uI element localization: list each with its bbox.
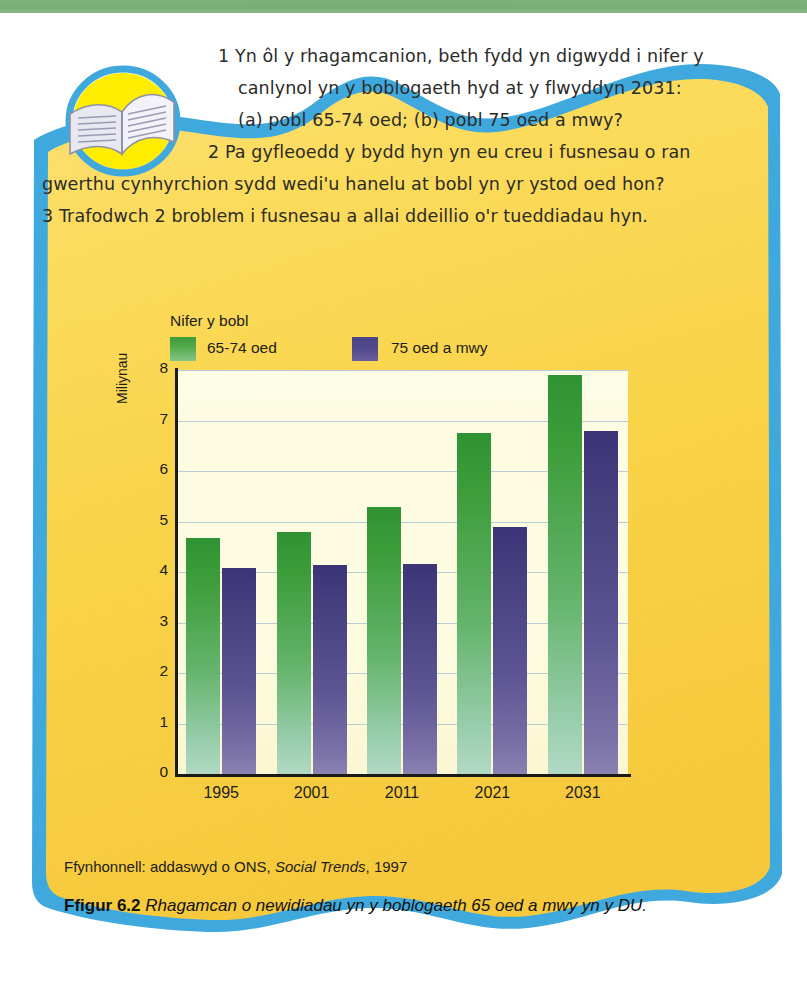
- source-suffix: , 1997: [366, 858, 408, 875]
- x-tick-label-2031: 2031: [543, 784, 623, 802]
- bar-chart: Nifer y bobl 65-74 oed 75 oed a mwy Mili…: [120, 312, 660, 832]
- y-tick-label: 5: [146, 511, 168, 529]
- question-line-2: canlynol yn y boblogaeth hyd at y flwydd…: [238, 80, 682, 98]
- bar-2021-green: [457, 433, 491, 774]
- top-green-strip: [0, 0, 807, 13]
- gridline: [176, 370, 628, 371]
- y-tick-label: 3: [146, 612, 168, 630]
- legend-swatch-75-plus: [352, 337, 378, 361]
- question-line-5: gwerthu cynhyrchion sydd wedi'u hanelu a…: [42, 176, 665, 194]
- y-tick-label: 0: [146, 763, 168, 781]
- chart-legend-title: Nifer y bobl: [170, 312, 248, 330]
- bar-2011-purple: [403, 564, 437, 774]
- x-tick-label-2021: 2021: [452, 784, 532, 802]
- chart-legend: 65-74 oed 75 oed a mwy: [170, 336, 590, 362]
- y-axis-line: [175, 368, 178, 776]
- legend-swatch-65-74: [170, 337, 196, 361]
- figure-number: Ffigur 6.2: [64, 896, 141, 915]
- y-axis-label: Miliynau: [114, 353, 130, 404]
- source-publication: Social Trends: [275, 858, 366, 875]
- legend-label-65-74: 65-74 oed: [207, 339, 277, 357]
- figure-caption-text: Rhagamcan o newidiadau yn y boblogaeth 6…: [145, 896, 647, 915]
- source-line: Ffynhonnell: addaswyd o ONS, Social Tren…: [64, 858, 407, 875]
- x-tick-label-2001: 2001: [272, 784, 352, 802]
- bar-2011-green: [367, 507, 401, 774]
- x-tick-label-1995: 1995: [181, 784, 261, 802]
- y-tick-label: 4: [146, 561, 168, 579]
- question-line-1: 1 Yn ôl y rhagamcanion, beth fydd yn dig…: [218, 48, 704, 66]
- figure-caption: Ffigur 6.2 Rhagamcan o newidiadau yn y b…: [64, 895, 724, 918]
- bar-2021-purple: [493, 527, 527, 774]
- open-book-icon: [58, 62, 188, 180]
- bar-2031-green: [548, 375, 582, 774]
- y-tick-label: 2: [146, 662, 168, 680]
- y-tick-label: 7: [146, 410, 168, 428]
- bar-1995-purple: [222, 568, 256, 774]
- bar-2001-green: [277, 532, 311, 774]
- bar-2031-purple: [584, 431, 618, 774]
- y-tick-label: 8: [146, 359, 168, 377]
- legend-label-75-plus: 75 oed a mwy: [391, 339, 488, 357]
- y-tick-label: 6: [146, 460, 168, 478]
- question-line-4: 2 Pa gyfleoedd y bydd hyn yn eu creu i f…: [208, 144, 691, 162]
- plot-area: [176, 370, 628, 774]
- source-prefix: Ffynhonnell: addaswyd o ONS,: [64, 858, 271, 875]
- bar-2001-purple: [313, 565, 347, 774]
- page-root: 1 Yn ôl y rhagamcanion, beth fydd yn dig…: [0, 0, 807, 986]
- question-line-3: (a) pobl 65-74 oed; (b) pobl 75 oed a mw…: [238, 112, 623, 130]
- bar-1995-green: [186, 538, 220, 774]
- x-axis-line: [175, 774, 631, 777]
- y-tick-label: 1: [146, 713, 168, 731]
- question-line-6: 3 Trafodwch 2 broblem i fusnesau a allai…: [42, 208, 648, 226]
- x-tick-label-2011: 2011: [362, 784, 442, 802]
